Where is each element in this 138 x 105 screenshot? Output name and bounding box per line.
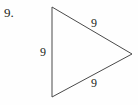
figure-container: 9. 9 9 9 (0, 0, 138, 105)
side-label-bottom: 9 (91, 77, 97, 89)
triangle-diagram (0, 0, 138, 105)
side-label-top: 9 (91, 17, 97, 29)
side-label-left: 9 (40, 46, 46, 58)
